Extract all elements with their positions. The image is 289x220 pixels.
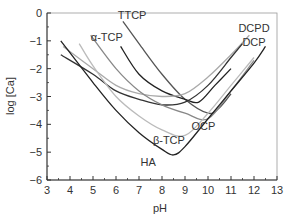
y-tick-label: −3 <box>29 91 42 103</box>
series-label: DCPD <box>238 22 269 34</box>
x-tick-label: 9 <box>182 184 188 196</box>
y-tick-label: −4 <box>29 118 42 130</box>
series-label: α-TCP <box>91 31 123 43</box>
y-axis-label: log [Ca] <box>4 77 16 115</box>
series-label: HA <box>141 156 157 168</box>
series-label: OCP <box>191 120 215 132</box>
chart-svg: 3456789101112130−1−2−3−4−5−6 TTCPα-TCPDC… <box>0 0 289 220</box>
x-tick-label: 12 <box>248 184 260 196</box>
x-tick-label: 10 <box>202 184 214 196</box>
y-tick-label: −1 <box>29 35 42 47</box>
x-tick-label: 8 <box>159 184 165 196</box>
x-axis-label: pH <box>153 202 167 214</box>
y-tick-label: −5 <box>29 146 42 158</box>
series-ocp <box>91 35 254 120</box>
x-tick-label: 5 <box>90 184 96 196</box>
x-tick-label: 13 <box>271 184 283 196</box>
y-tick-label: 0 <box>36 7 42 19</box>
y-tick-label: −6 <box>29 174 42 186</box>
series-labels: TTCPα-TCPDCPDDCPOCPβ-TCPHA <box>91 9 270 169</box>
x-tick-label: 7 <box>136 184 142 196</box>
x-tick-label: 6 <box>113 184 119 196</box>
x-tick-label: 11 <box>225 184 236 196</box>
series-label: TTCP <box>118 9 147 21</box>
series-tcp <box>121 46 231 102</box>
series-label: DCP <box>242 36 265 48</box>
y-tick-label: −2 <box>29 63 42 75</box>
series-label: β-TCP <box>153 134 185 146</box>
x-tick-label: 4 <box>67 184 73 196</box>
x-tick-label: 3 <box>44 184 50 196</box>
solubility-chart: 3456789101112130−1−2−3−4−5−6 TTCPα-TCPDC… <box>0 0 289 220</box>
